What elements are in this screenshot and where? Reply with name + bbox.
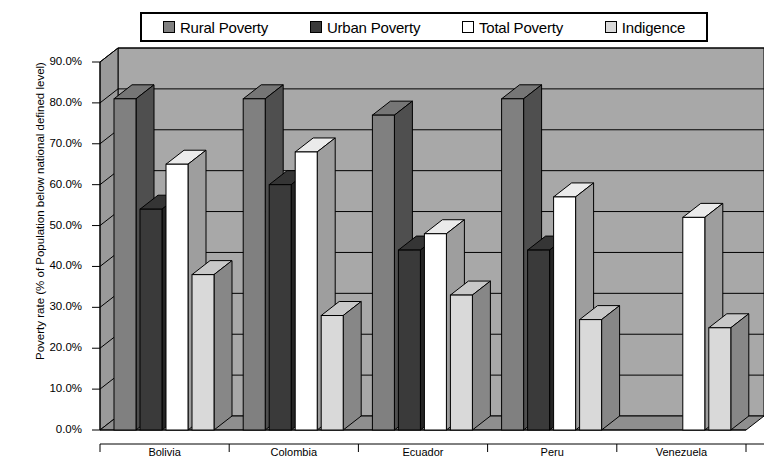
y-axis-tick-label: 50.0% [20, 220, 82, 231]
bar-colombia-indigence [321, 302, 361, 430]
chart-root: Rural Poverty Urban Poverty Total Povert… [0, 0, 764, 460]
bar-peru-indigence [580, 306, 620, 430]
x-axis-label-ecuador: Ecuador [363, 446, 483, 458]
bar-venezuela-indigence [709, 314, 749, 430]
bar-ecuador-indigence [450, 281, 490, 430]
plot-svg [0, 0, 764, 460]
x-axis-label-venezuela: Venezuela [621, 446, 741, 458]
y-axis-tick-label: 70.0% [20, 138, 82, 149]
x-axis-label-colombia: Colombia [234, 446, 354, 458]
bar-bolivia-indigence [192, 261, 232, 430]
y-axis-tick-label: 10.0% [20, 383, 82, 394]
y-axis-tick-label: 40.0% [20, 260, 82, 271]
y-axis-tick-label: 60.0% [20, 179, 82, 190]
y-axis-tick-label: 90.0% [20, 56, 82, 67]
x-axis-label-bolivia: Bolivia [105, 446, 225, 458]
y-axis-tick-label: 30.0% [20, 301, 82, 312]
plot-area [0, 0, 764, 460]
y-axis-tick-label: 80.0% [20, 97, 82, 108]
y-axis-tick-label: 20.0% [20, 342, 82, 353]
x-axis-label-peru: Peru [492, 446, 612, 458]
y-axis-tick-label: 0.0% [20, 424, 82, 435]
